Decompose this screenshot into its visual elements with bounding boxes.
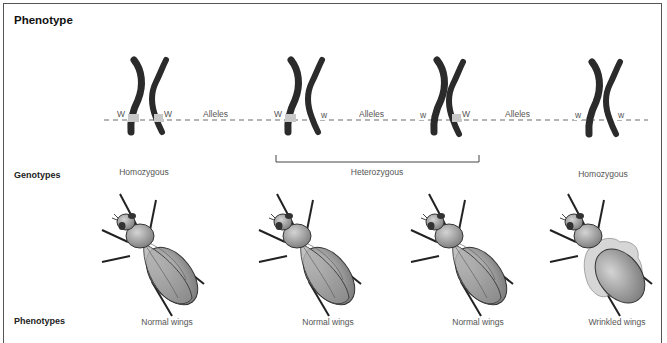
allele-label: W bbox=[461, 109, 471, 119]
genotype-heterozygous: Heterozygous bbox=[322, 167, 432, 177]
alleles-label: Alleles bbox=[503, 109, 532, 119]
genotypes-row-label: Genotypes bbox=[14, 170, 61, 180]
fly-3 bbox=[411, 194, 517, 316]
chromosome-pair-2 bbox=[285, 60, 322, 132]
phenotype-label-4: Wrinkled wings bbox=[562, 317, 667, 327]
alleles-label: Alleles bbox=[201, 109, 230, 119]
phenotype-label-2: Normal wings bbox=[273, 317, 383, 327]
allele-label: w bbox=[574, 110, 582, 120]
allele-label: W bbox=[273, 109, 283, 119]
genotype-homozygous-dominant: Homozygous bbox=[89, 167, 199, 177]
heterozygous-bracket bbox=[276, 155, 479, 162]
chromosome-pair-4 bbox=[589, 62, 620, 134]
allele-label: W bbox=[163, 109, 173, 119]
chromosome-pair-3 bbox=[434, 60, 463, 134]
phenotypes-row-label: Phenotypes bbox=[14, 316, 65, 326]
allele-label: W bbox=[116, 109, 126, 119]
allele-label: w bbox=[419, 110, 427, 120]
alleles-label: Alleles bbox=[357, 109, 386, 119]
fly-4-wrinkled bbox=[550, 194, 655, 316]
allele-label: w bbox=[320, 110, 328, 120]
genotype-homozygous-recessive: Homozygous bbox=[548, 169, 658, 179]
phenotype-label-1: Normal wings bbox=[112, 317, 222, 327]
chromosome-pair-1 bbox=[128, 60, 166, 132]
allele-label: w bbox=[617, 110, 625, 120]
fly-2 bbox=[259, 194, 365, 316]
fly-1 bbox=[102, 194, 208, 316]
phenotype-label-3: Normal wings bbox=[423, 317, 533, 327]
